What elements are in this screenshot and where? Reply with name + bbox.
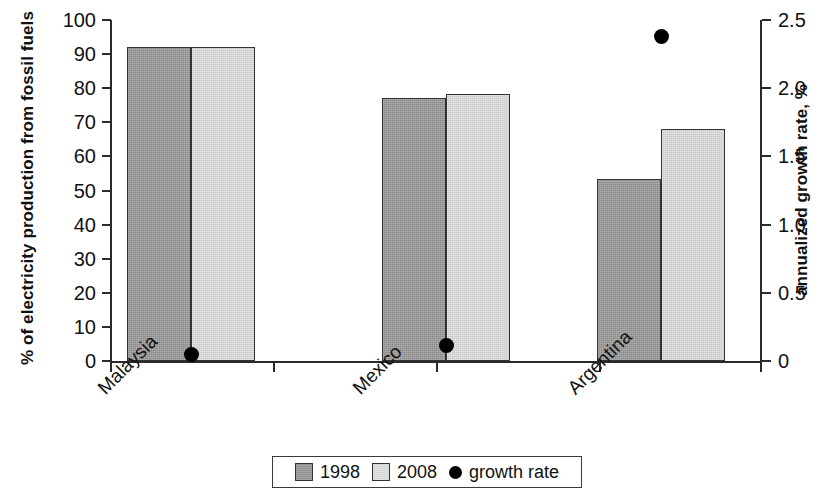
- category-label-mexico: Mexico: [348, 341, 406, 399]
- bar-1998-malaysia: [127, 47, 191, 361]
- right-tick-label-1.0: 1.0: [778, 215, 834, 235]
- left-tick-mark-80: [102, 87, 111, 89]
- legend-label-2008: 2008: [397, 462, 437, 483]
- right-axis-line: [760, 20, 762, 363]
- right-tick-mark-0: [762, 360, 771, 362]
- right-tick-label-1.5: 1.5: [778, 146, 834, 166]
- left-tick-label-80: 80: [26, 78, 96, 98]
- legend-item-growth-rate: growth rate: [449, 462, 559, 483]
- legend-label-1998: 1998: [320, 462, 360, 483]
- legend-item-1998: 1998: [295, 462, 360, 483]
- left-tick-mark-70: [102, 121, 111, 123]
- x-tick-2: [436, 363, 438, 372]
- right-tick-mark-2.0: [762, 87, 771, 89]
- left-tick-label-20: 20: [26, 283, 96, 303]
- bar-2008-argentina: [661, 129, 725, 361]
- right-tick-mark-2.5: [762, 19, 771, 21]
- bar-chart: % of electricity production from fossil …: [0, 0, 834, 492]
- right-tick-label-0: 0: [778, 351, 834, 371]
- left-tick-label-50: 50: [26, 181, 96, 201]
- legend-swatch-2008-icon: [372, 463, 390, 481]
- left-tick-mark-100: [102, 19, 111, 21]
- left-tick-mark-40: [102, 224, 111, 226]
- left-tick-label-100: 100: [26, 10, 96, 30]
- right-tick-label-0.5: 0.5: [778, 283, 834, 303]
- right-tick-mark-1.5: [762, 155, 771, 157]
- right-tick-label-2.0: 2.0: [778, 78, 834, 98]
- growth-rate-dot-malaysia: [184, 347, 199, 362]
- left-tick-mark-60: [102, 155, 111, 157]
- growth-rate-dot-argentina: [654, 29, 669, 44]
- right-tick-mark-0.5: [762, 292, 771, 294]
- legend-dot-icon: [449, 466, 462, 479]
- left-tick-mark-0: [102, 360, 111, 362]
- left-tick-mark-30: [102, 258, 111, 260]
- growth-rate-dot-mexico: [439, 338, 454, 353]
- left-tick-label-0: 0: [26, 351, 96, 371]
- left-tick-label-60: 60: [26, 146, 96, 166]
- bar-2008-mexico: [446, 94, 510, 361]
- right-tick-label-2.5: 2.5: [778, 10, 834, 30]
- legend-swatch-1998-icon: [295, 463, 313, 481]
- left-tick-mark-50: [102, 190, 111, 192]
- bar-2008-malaysia: [191, 47, 255, 361]
- left-tick-label-10: 10: [26, 317, 96, 337]
- left-tick-label-40: 40: [26, 215, 96, 235]
- chart-legend: 1998 2008 growth rate: [272, 456, 582, 488]
- left-axis-line: [110, 20, 112, 363]
- left-tick-label-70: 70: [26, 112, 96, 132]
- left-tick-mark-10: [102, 326, 111, 328]
- right-tick-mark-1.0: [762, 224, 771, 226]
- left-tick-label-30: 30: [26, 249, 96, 269]
- right-axis-title: annualized growth rate, %: [792, 20, 812, 360]
- left-tick-mark-90: [102, 53, 111, 55]
- left-tick-mark-20: [102, 292, 111, 294]
- legend-label-growth-rate: growth rate: [469, 462, 559, 483]
- left-tick-label-90: 90: [26, 44, 96, 64]
- bar-1998-mexico: [382, 98, 446, 361]
- legend-item-2008: 2008: [372, 462, 437, 483]
- x-tick-4: [760, 363, 762, 372]
- x-tick-1: [273, 363, 275, 372]
